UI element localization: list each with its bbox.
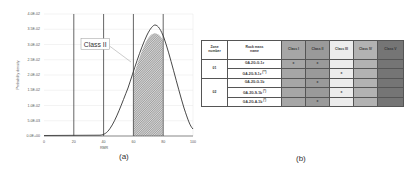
class-v-cell xyxy=(378,88,404,97)
header-class-i: Class I xyxy=(282,41,306,60)
class-iii-cell xyxy=(330,78,354,87)
svg-text:3.5E-02: 3.5E-02 xyxy=(27,27,40,31)
probability-density-chart: 4.0E-02 3.5E-02 3.0E-02 2.5E-02 2.0E-02 … xyxy=(0,0,205,174)
rock-mass-name-cell: GA-2G-A-1b (*) xyxy=(228,97,282,106)
table-row: 02 GA-2G-G-1b x xyxy=(202,78,404,87)
x-tick-labels: 0 20 40 60 80 100 xyxy=(43,140,196,144)
header-class-ii: Class II xyxy=(306,41,330,60)
class-iii-cell xyxy=(330,97,354,106)
svg-text:1.5E-02: 1.5E-02 xyxy=(27,88,40,92)
svg-text:2.0E-02: 2.0E-02 xyxy=(27,73,40,77)
class-ii-cell: x xyxy=(306,97,330,106)
class-iv-cell xyxy=(354,97,378,106)
annotation-class-ii: Class II xyxy=(84,41,107,48)
table-row: GA-2G-S-1z (**) x xyxy=(202,69,404,78)
rock-mass-name-cell: GA-2G-G-1b xyxy=(228,78,282,87)
rock-mass-name-cell: GA-2G-G-1z xyxy=(228,60,282,69)
table-header-row: Zonenumber Rock massname Class I Class I… xyxy=(202,41,404,60)
class-i-cell xyxy=(282,78,306,87)
svg-text:5.0E-03: 5.0E-03 xyxy=(27,119,40,123)
y-axis-label: Probability density xyxy=(16,60,20,89)
svg-text:3.0E-02: 3.0E-02 xyxy=(27,43,40,47)
svg-text:100: 100 xyxy=(190,140,196,144)
svg-text:2.5E-02: 2.5E-02 xyxy=(27,58,40,62)
class-i-cell xyxy=(282,97,306,106)
rock-mass-name-cell: GA-2G-S-1b (*) xyxy=(228,88,282,97)
class-iii-cell xyxy=(330,60,354,69)
table-row: GA-2G-A-1b (*) x xyxy=(202,97,404,106)
class-ii-cell xyxy=(306,88,330,97)
table-row: GA-2G-S-1b (*) x xyxy=(202,88,404,97)
header-rock-mass-name: Rock massname xyxy=(228,41,282,60)
class-v-cell xyxy=(378,69,404,78)
class-v-cell xyxy=(378,97,404,106)
class-iv-cell xyxy=(354,69,378,78)
caption-a: (a) xyxy=(119,152,129,161)
rock-mass-name-cell: GA-2G-S-1z (**) xyxy=(228,69,282,78)
header-zone-number: Zonenumber xyxy=(202,41,228,60)
header-class-iii: Class III xyxy=(330,41,354,60)
svg-text:60: 60 xyxy=(131,140,135,144)
class-ii-cell xyxy=(306,69,330,78)
y-tick-labels: 4.0E-02 3.5E-02 3.0E-02 2.5E-02 2.0E-02 … xyxy=(27,12,41,138)
header-class-iv: Class IV xyxy=(354,41,378,60)
class-i-cell: x xyxy=(282,60,306,69)
class-v-cell xyxy=(378,60,404,69)
class-ii-shaded-area xyxy=(133,33,162,136)
class-iii-cell: x xyxy=(330,69,354,78)
rock-mass-class-table: Zonenumber Rock massname Class I Class I… xyxy=(201,40,404,107)
class-ii-cell: x xyxy=(306,78,330,87)
zone-number-cell: 01 xyxy=(202,60,228,79)
table-row: 01 GA-2G-G-1z x x xyxy=(202,60,404,69)
class-ii-cell: x xyxy=(306,60,330,69)
svg-text:0.0E+00: 0.0E+00 xyxy=(27,134,41,138)
svg-text:40: 40 xyxy=(102,140,106,144)
caption-b: (b) xyxy=(296,154,306,163)
header-class-v: Class V xyxy=(378,41,404,60)
svg-text:80: 80 xyxy=(161,140,165,144)
class-i-cell xyxy=(282,69,306,78)
class-v-cell xyxy=(378,78,404,87)
class-iv-cell xyxy=(354,88,378,97)
svg-text:1.0E-02: 1.0E-02 xyxy=(27,104,40,108)
class-i-cell xyxy=(282,88,306,97)
class-iv-cell xyxy=(354,60,378,69)
svg-text:20: 20 xyxy=(72,140,76,144)
svg-text:0: 0 xyxy=(43,140,45,144)
class-iii-cell: x xyxy=(330,88,354,97)
density-curve xyxy=(44,25,193,136)
svg-text:4.0E-02: 4.0E-02 xyxy=(27,12,40,16)
class-iv-cell xyxy=(354,78,378,87)
x-axis-label: RMR xyxy=(100,146,109,150)
zone-number-cell: 02 xyxy=(202,78,228,106)
gridlines xyxy=(44,14,193,136)
